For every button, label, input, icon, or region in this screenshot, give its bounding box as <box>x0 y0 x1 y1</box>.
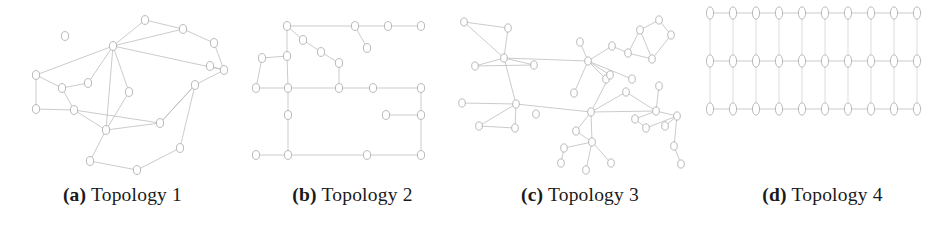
grid-node <box>821 7 828 19</box>
topology-2-nodes <box>252 22 424 160</box>
caption-topology-4: (d) Topology 4 <box>700 182 945 208</box>
grid-node <box>913 7 920 19</box>
caption-row: (a) Topology 1 (b) Topology 2 (c) Topolo… <box>0 182 945 227</box>
grid-node <box>775 7 782 19</box>
grid-node <box>821 103 828 115</box>
grid-node <box>890 7 897 19</box>
caption-tag-d: (d) <box>762 184 786 205</box>
caption-text-c: Topology 3 <box>543 184 639 205</box>
grid-node <box>706 55 713 67</box>
grid-node <box>729 103 736 115</box>
figure-root: (a) Topology 1 (b) Topology 2 (c) Topolo… <box>0 0 945 227</box>
grid-node <box>844 7 851 19</box>
grid-node <box>913 103 920 115</box>
grid-node <box>867 55 874 67</box>
grid-node <box>752 103 759 115</box>
caption-topology-1: (a) Topology 1 <box>0 182 245 208</box>
grid-node <box>798 55 805 67</box>
topology-1-panel <box>0 0 245 180</box>
grid-node <box>913 55 920 67</box>
caption-tag-c: (c) <box>521 184 543 205</box>
grid-node <box>798 7 805 19</box>
caption-tag-a: (a) <box>63 184 86 205</box>
caption-text-b: Topology 2 <box>317 184 413 205</box>
grid-node <box>775 103 782 115</box>
grid-node <box>798 103 805 115</box>
caption-text-d: Topology 4 <box>787 184 883 205</box>
topology-3-panel <box>460 0 700 180</box>
caption-topology-3: (c) Topology 3 <box>460 182 700 208</box>
topology-3-graph <box>460 0 700 180</box>
caption-tag-b: (b) <box>292 184 316 205</box>
topology-2-panel <box>245 0 460 180</box>
grid-node <box>821 55 828 67</box>
grid-node <box>775 55 782 67</box>
grid-node <box>752 7 759 19</box>
caption-text-a: Topology 1 <box>86 184 182 205</box>
topology-4-edges <box>710 13 917 109</box>
topology-2-graph <box>245 0 460 180</box>
grid-node <box>844 55 851 67</box>
topology-1-graph <box>0 0 245 180</box>
grid-node <box>867 103 874 115</box>
topology-3-nodes <box>459 16 685 174</box>
grid-node <box>890 55 897 67</box>
grid-node <box>729 55 736 67</box>
topology-4-panel <box>700 0 945 180</box>
grid-node <box>752 55 759 67</box>
grid-node <box>844 103 851 115</box>
grid-node <box>867 7 874 19</box>
grid-node <box>706 103 713 115</box>
grid-node <box>890 103 897 115</box>
caption-topology-2: (b) Topology 2 <box>245 182 460 208</box>
topology-4-graph <box>700 0 945 180</box>
topology-1-nodes <box>32 16 227 175</box>
grid-node <box>729 7 736 19</box>
grid-node <box>706 7 713 19</box>
